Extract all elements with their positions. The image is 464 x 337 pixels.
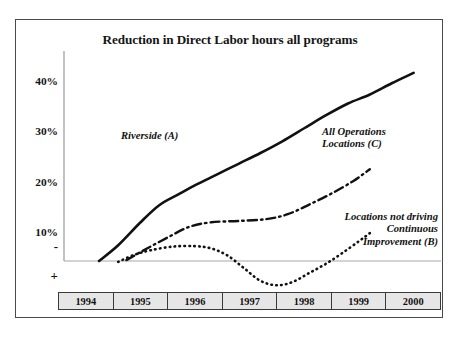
- x-axis-year-cell: 1996: [168, 293, 223, 309]
- x-axis-year-cell: 1994: [59, 293, 114, 309]
- x-axis-year-table: 1994199519961997199819992000: [58, 292, 441, 310]
- series-line-not-driving: [118, 233, 370, 285]
- scan-artifact-strip: [0, 0, 464, 14]
- x-axis-year-cell: 1997: [223, 293, 278, 309]
- x-axis-year-cell: 1995: [114, 293, 169, 309]
- chart-frame: Reduction in Direct Labor hours all prog…: [15, 19, 443, 318]
- x-axis-year-cell: 1999: [332, 293, 387, 309]
- plot-area: [16, 20, 444, 319]
- chart-page: Reduction in Direct Labor hours all prog…: [0, 0, 464, 337]
- x-axis-year-cell: 2000: [386, 293, 440, 309]
- series-line-all-operations: [126, 169, 369, 260]
- x-axis-year-cell: 1998: [277, 293, 332, 309]
- series-line-riverside: [99, 73, 414, 261]
